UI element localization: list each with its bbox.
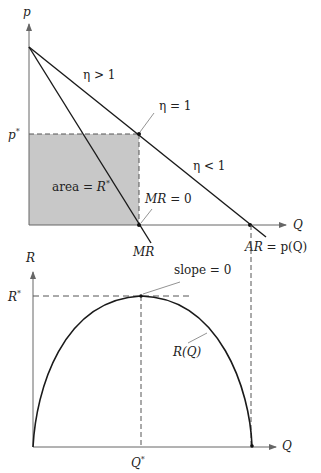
slope-zero-label: slope = 0 — [174, 263, 231, 277]
r-star-label: R* — [7, 289, 21, 304]
peak-revenue-point — [139, 294, 143, 298]
mr-curve-label: MR — [132, 245, 154, 259]
bottom-panel: R Q R* slope = 0 R(Q) Q* — [7, 251, 292, 470]
mr-zero-label: MR = 0 — [144, 192, 192, 206]
q-axis-label-top: Q — [293, 218, 303, 232]
area-label: area = R* — [52, 179, 110, 194]
revenue-curve — [33, 296, 252, 447]
top-panel: p Q p* area = R* η > 1 η = 1 η < 1 MR = … — [8, 5, 307, 259]
unit-elastic-point — [137, 132, 141, 136]
monopoly-revenue-diagram: p Q p* area = R* η > 1 η = 1 η < 1 MR = … — [0, 0, 321, 473]
p-axis-label: p — [23, 5, 31, 19]
q-axis-label-bottom: Q — [282, 439, 292, 453]
slope-zero-leader — [143, 282, 180, 294]
unit-elastic-leader — [140, 113, 154, 132]
unit-elastic-label: η = 1 — [159, 99, 192, 113]
p-star-label: p* — [8, 127, 20, 142]
r-axis-label: R — [25, 251, 35, 265]
q-star-label: Q* — [131, 455, 145, 470]
zero-revenue-point — [250, 444, 254, 448]
revenue-curve-label: R(Q) — [172, 345, 202, 359]
revenue-curve-leader — [188, 333, 207, 343]
elastic-label: η > 1 — [83, 68, 116, 82]
inelastic-label: η < 1 — [193, 159, 226, 173]
mr-zero-leader — [141, 209, 152, 223]
ar-curve-label: AR = p(Q) — [244, 240, 307, 254]
mr-zero-point — [137, 223, 141, 227]
